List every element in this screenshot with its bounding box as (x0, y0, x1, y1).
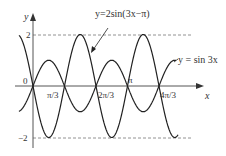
x-tick-pi-over-3: π/3 (47, 90, 59, 100)
x-tick-4pi-over-3: 4π/3 (160, 90, 177, 100)
x-tick-pi: π (128, 75, 133, 85)
y-tick-neg2: −2 (18, 133, 28, 143)
x-axis-label: x (204, 90, 210, 101)
x-tick-2pi-over-3: 2π/3 (98, 90, 115, 100)
label-pointer-big (93, 28, 108, 50)
curve-label-big: y=2sin(3x−π) (95, 8, 150, 20)
trig-diagram: y x 0 2 −2 π/3 2π/3 π 4π/3 y=2sin(3x−π) … (0, 0, 226, 156)
curve-label-small: y = sin 3x (178, 54, 218, 65)
y-axis-arrow-icon (30, 13, 36, 21)
y-tick-2: 2 (26, 30, 31, 40)
y-axis-label: y (23, 11, 29, 22)
origin-label: 0 (23, 76, 28, 86)
x-axis-arrow-icon (196, 83, 204, 89)
